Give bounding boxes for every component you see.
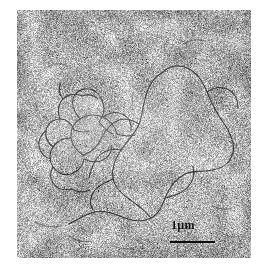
scale-bar: 1µm bbox=[153, 218, 243, 250]
electron-micrograph-field: 1µm bbox=[17, 10, 251, 258]
scale-bar-label: 1µm bbox=[171, 218, 195, 232]
figure-page: 1µm bbox=[0, 0, 271, 278]
scale-bar-line bbox=[170, 241, 215, 243]
